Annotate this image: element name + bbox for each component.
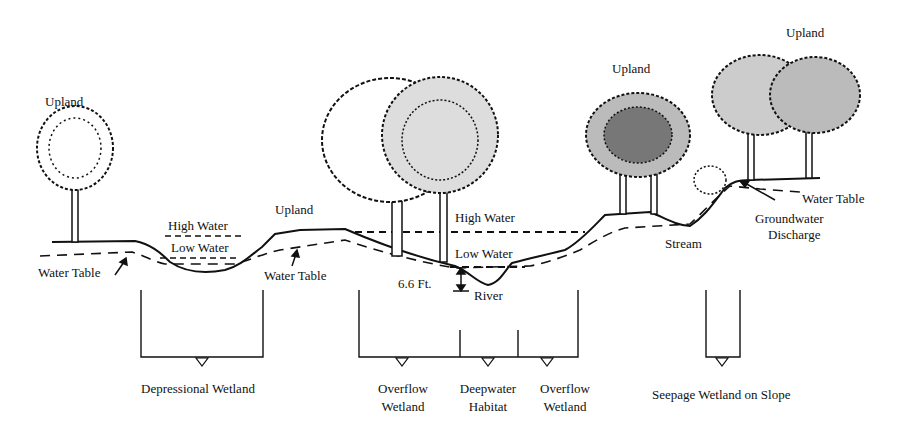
river-label: River bbox=[474, 288, 503, 303]
upland-right1-label: Upland bbox=[612, 61, 650, 76]
wetland-type-overflow-right-line2: Wetland bbox=[532, 399, 598, 414]
shrub-slope bbox=[694, 166, 726, 194]
wetland-type-depressional: Depressional Wetland bbox=[141, 381, 255, 396]
water-table-mid-label: Water Table bbox=[264, 268, 326, 283]
bracket-pointers bbox=[196, 358, 728, 366]
high-water-left-label: High Water bbox=[168, 218, 228, 233]
groundwater-label-line2: Discharge bbox=[768, 227, 820, 242]
groundwater-label-line1: Groundwater bbox=[755, 211, 824, 226]
high-water-river-label: High Water bbox=[455, 210, 515, 225]
wetland-type-seepage: Seepage Wetland on Slope bbox=[652, 387, 790, 402]
upland-right2-label: Upland bbox=[786, 25, 824, 40]
water-table-left-label: Water Table bbox=[38, 265, 100, 280]
tree-upland-mid-right bbox=[586, 93, 690, 214]
tree-upland-far-right bbox=[712, 55, 860, 180]
stream-label: Stream bbox=[665, 236, 702, 251]
wetland-type-overflow-left-line1: Overflow bbox=[370, 381, 436, 396]
tree-overflow-cluster bbox=[322, 77, 498, 262]
wetland-type-overflow-right-line1: Overflow bbox=[532, 381, 598, 396]
wetland-brackets bbox=[141, 290, 740, 357]
wetland-type-overflow-left-line2: Wetland bbox=[370, 399, 436, 414]
upland-left-label: Upland bbox=[45, 94, 83, 109]
depth-label: 6.6 Ft. bbox=[398, 276, 432, 291]
wetland-type-deepwater-line2: Habitat bbox=[452, 399, 524, 414]
wetland-type-deepwater-line1: Deepwater bbox=[452, 381, 524, 396]
low-water-left-label: Low Water bbox=[171, 240, 229, 255]
low-water-river-label: Low Water bbox=[455, 246, 513, 261]
upland-mid-label: Upland bbox=[275, 202, 313, 217]
wetland-cross-section-diagram: Upland High Water Low Water Upland Water… bbox=[0, 0, 909, 434]
water-table-right-label: Water Table bbox=[802, 191, 864, 206]
tree-upland-left bbox=[37, 106, 113, 242]
